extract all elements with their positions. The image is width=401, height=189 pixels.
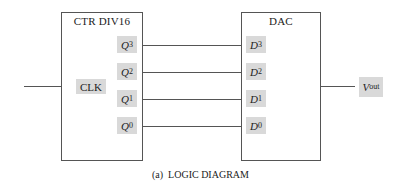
counter-output-q0: Q0 (117, 117, 137, 134)
dac-block: DAC (241, 12, 321, 161)
dac-input-d1: D1 (246, 90, 266, 107)
dac-input-d0: D0 (246, 117, 266, 134)
dac-input-d2: D2 (246, 63, 266, 80)
q0-name: Q (121, 120, 129, 132)
d1-name: D (250, 93, 258, 105)
q3-name: Q (121, 39, 129, 51)
vout-wire (320, 86, 355, 87)
wire-q0-d0 (142, 126, 241, 127)
d2-name: D (250, 66, 258, 78)
wire-q1-d1 (142, 99, 241, 100)
figure-caption: (a) LOGIC DIAGRAM (152, 169, 249, 180)
d0-name: D (250, 120, 258, 132)
counter-output-q1: Q1 (117, 90, 137, 107)
wire-q2-d2 (142, 72, 241, 73)
clk-label: CLK (76, 79, 106, 94)
vout-name: V (363, 81, 370, 93)
q1-name: Q (121, 93, 129, 105)
d3-name: D (250, 39, 258, 51)
dac-title: DAC (242, 15, 320, 27)
wire-q3-d3 (142, 45, 241, 46)
vout-label: Vout (359, 77, 383, 97)
q2-name: Q (121, 66, 129, 78)
dac-input-d3: D3 (246, 36, 266, 53)
counter-output-q2: Q2 (117, 63, 137, 80)
counter-output-q3: Q3 (117, 36, 137, 53)
counter-title: CTR DIV16 (62, 15, 142, 27)
